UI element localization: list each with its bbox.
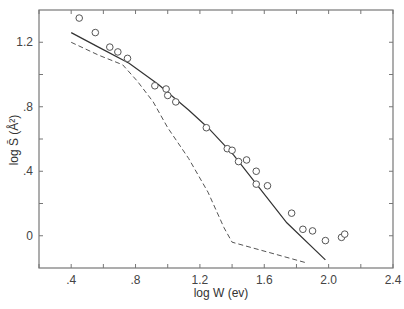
data-point-marker	[164, 92, 171, 99]
data-point-marker	[341, 231, 348, 238]
data-point-marker	[229, 147, 236, 154]
y-axis-label: log S̄ (Å²)	[6, 115, 21, 166]
dashed-theory-curve	[71, 42, 308, 263]
data-point-marker	[107, 44, 114, 51]
data-point-marker	[92, 29, 99, 36]
x-tick-label: 2.0	[320, 273, 337, 287]
data-point-marker	[172, 99, 179, 106]
y-tick-label: .4	[23, 164, 33, 178]
plot-frame	[39, 10, 393, 268]
data-point-marker	[124, 55, 131, 62]
x-tick-label: 2.4	[385, 273, 402, 287]
solid-theory-curve	[71, 33, 325, 260]
x-tick-label: 1.6	[256, 273, 273, 287]
data-point-marker	[309, 228, 316, 235]
data-point-marker	[203, 124, 210, 131]
data-point-marker	[115, 49, 122, 56]
data-point-marker	[253, 181, 260, 188]
y-tick-label: 0	[26, 229, 33, 243]
chart: .4.81.21.62.02.40.4.81.2 log W (ev) log …	[0, 0, 404, 309]
axis-tick-labels: .4.81.21.62.02.40.4.81.2	[16, 35, 401, 287]
x-tick-label: .8	[131, 273, 141, 287]
x-tick-label: .4	[66, 273, 76, 287]
y-tick-label: .8	[23, 100, 33, 114]
data-point-marker	[163, 86, 170, 93]
data-point-marker	[76, 15, 83, 22]
x-axis-label: log W (ev)	[194, 286, 249, 300]
data-points	[76, 15, 348, 244]
x-tick-label: 1.2	[192, 273, 209, 287]
data-point-marker	[322, 237, 329, 244]
data-point-marker	[264, 182, 271, 189]
data-point-marker	[235, 158, 242, 165]
y-tick-label: 1.2	[16, 35, 33, 49]
data-point-marker	[288, 210, 295, 217]
axis-ticks	[39, 10, 393, 268]
data-point-marker	[300, 226, 307, 233]
data-point-marker	[152, 82, 159, 89]
data-point-marker	[253, 168, 260, 175]
data-point-marker	[243, 157, 250, 164]
